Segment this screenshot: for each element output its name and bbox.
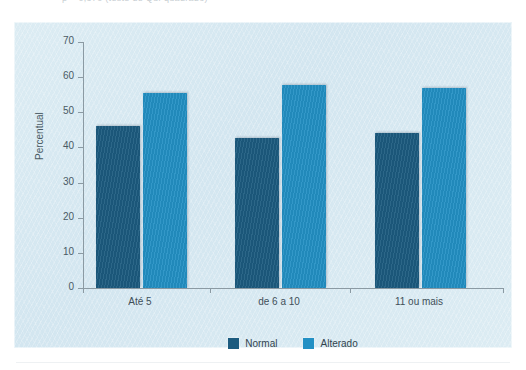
plot-area: 70 60 50 40 30 20 10 0 — [83, 42, 503, 288]
y-tick-label-60: 60 — [63, 70, 74, 81]
legend-swatch-alterado-icon — [303, 338, 314, 349]
x-tick-start — [83, 288, 84, 293]
y-tick-30: 30 — [78, 183, 83, 184]
bar-face — [96, 126, 140, 288]
y-axis-line — [83, 42, 84, 289]
bar-alterado-11-ou-mais[interactable] — [422, 88, 466, 288]
legend-item-normal[interactable]: Normal — [228, 338, 277, 349]
clipped-header-text: p = 0,370 (teste de Qui-quadrado) — [62, 0, 208, 3]
y-tick-70: 70 — [78, 42, 83, 43]
page-rule-divider — [16, 362, 510, 363]
legend-label-normal: Normal — [245, 338, 277, 349]
bar-alterado-ate-5[interactable] — [143, 93, 187, 288]
bar-face — [422, 88, 466, 288]
y-tick-label-20: 20 — [63, 211, 74, 222]
legend-label-alterado: Alterado — [320, 338, 357, 349]
y-tick-20: 20 — [78, 218, 83, 219]
y-tick-label-0: 0 — [68, 281, 74, 292]
y-tick-50: 50 — [78, 112, 83, 113]
x-tick-end — [503, 288, 504, 293]
legend-item-alterado[interactable]: Alterado — [303, 338, 357, 349]
legend-swatch-normal-icon — [228, 338, 239, 349]
bar-face — [143, 93, 187, 288]
y-tick-label-30: 30 — [63, 176, 74, 187]
x-category-label-3: 11 ou mais — [395, 296, 443, 307]
bar-face — [235, 138, 279, 288]
y-tick-40: 40 — [78, 147, 83, 148]
y-axis-title: Percentual — [34, 112, 45, 160]
y-tick-label-50: 50 — [63, 105, 74, 116]
x-axis-line — [83, 288, 504, 289]
x-tick-2 — [350, 288, 351, 293]
x-category-label-1: Até 5 — [128, 296, 151, 307]
bar-face — [375, 133, 419, 288]
y-tick-label-70: 70 — [63, 35, 74, 46]
y-tick-label-40: 40 — [63, 140, 74, 151]
y-tick-10: 10 — [78, 253, 83, 254]
chart-legend: Normal Alterado — [83, 338, 503, 349]
y-tick-label-10: 10 — [63, 246, 74, 257]
bar-normal-11-ou-mais[interactable] — [375, 133, 419, 288]
chart-panel: 70 60 50 40 30 20 10 0 — [14, 22, 512, 348]
bar-alterado-de-6-a-10[interactable] — [282, 85, 326, 288]
bar-face — [282, 85, 326, 288]
bar-normal-ate-5[interactable] — [96, 126, 140, 288]
x-tick-1 — [210, 288, 211, 293]
x-category-label-2: de 6 a 10 — [258, 296, 300, 307]
bar-normal-de-6-a-10[interactable] — [235, 138, 279, 288]
y-tick-60: 60 — [78, 77, 83, 78]
